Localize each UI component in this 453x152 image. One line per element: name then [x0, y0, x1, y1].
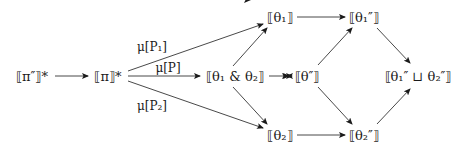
edge-label-mu-p2: μ[P₂] — [137, 99, 167, 113]
arrow-thetapp-theta1pp — [318, 28, 352, 65]
node-theta1: ⟦θ₁⟧ — [267, 11, 292, 24]
arrow-theta1pp-join — [377, 28, 410, 63]
arrow-theta2pp-join — [377, 89, 410, 124]
node-join: ⟦θ₁″ ⊔ θ₂″⟧ — [385, 70, 452, 83]
commutative-diagram: ⟦π″⟧* ⟦π⟧* ⟦θ₁⟧ ⟦θ₁ & θ₂⟧ ⟦θ₂⟧ ⟦θ″⟧ ⟦θ₁″… — [0, 0, 453, 152]
node-pi-star: ⟦π⟧* — [94, 70, 121, 83]
arrow-thetapp-theta2pp — [318, 87, 352, 124]
arrow-theta12-theta1 — [233, 28, 267, 66]
arrow-theta12-theta2 — [233, 87, 267, 124]
node-theta1-and-theta2: ⟦θ₁ & θ₂⟧ — [206, 70, 264, 83]
node-theta2-double-prime: ⟦θ₂″⟧ — [349, 129, 379, 142]
edge-label-mu-p: μ[P] — [155, 61, 180, 75]
node-pi-double-prime-star: ⟦π″⟧* — [16, 70, 48, 83]
edge-label-mu-p1: μ[P₁] — [137, 40, 167, 54]
node-theta2: ⟦θ₂⟧ — [267, 129, 292, 142]
node-theta-double-prime: ⟦θ″⟧ — [295, 70, 320, 83]
node-theta1-double-prime: ⟦θ₁″⟧ — [349, 11, 379, 24]
